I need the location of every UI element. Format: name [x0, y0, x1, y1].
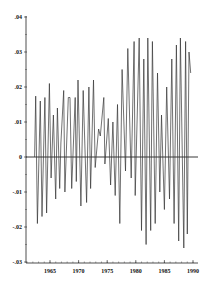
y-tick-label: .03 — [15, 49, 23, 55]
y-tick-label: -.02 — [13, 224, 23, 230]
line-chart: .04.03.02.010-.01-.02-.03 19651970197519… — [0, 0, 208, 291]
y-tick-label: 0 — [19, 154, 22, 160]
y-tick-label: .01 — [15, 119, 23, 125]
y-tick-label: .04 — [15, 14, 23, 20]
x-tick-label: 1965 — [44, 268, 56, 274]
y-tick-label: .02 — [15, 84, 23, 90]
y-tick-label: -.01 — [13, 189, 23, 195]
data-series-line — [35, 38, 191, 248]
y-axis: .04.03.02.010-.01-.02-.03 — [13, 14, 28, 265]
x-tick-label: 1980 — [130, 268, 142, 274]
x-tick-label: 1990 — [187, 268, 199, 274]
x-tick-label: 1970 — [73, 268, 85, 274]
y-tick-label: -.03 — [13, 259, 23, 265]
x-tick-label: 1985 — [158, 268, 170, 274]
x-axis: 196519701975198019851990 — [26, 260, 199, 274]
x-tick-label: 1975 — [101, 268, 113, 274]
